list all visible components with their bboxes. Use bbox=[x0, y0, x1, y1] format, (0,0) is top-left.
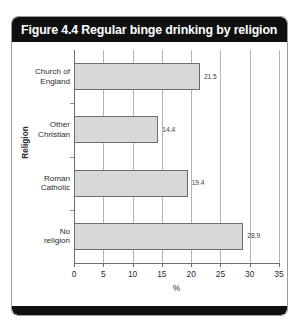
bar bbox=[74, 116, 158, 143]
bar-value-label: 21.5 bbox=[204, 73, 217, 80]
plot-area: 21.514.419.428.9 bbox=[74, 50, 279, 263]
x-tick-label: 30 bbox=[235, 269, 265, 279]
figure-card: Figure 4.4 Regular binge drinking by rel… bbox=[11, 16, 288, 316]
x-tick-label: 10 bbox=[118, 269, 148, 279]
gridline-30 bbox=[250, 50, 251, 263]
bar bbox=[74, 63, 200, 90]
category-label: Church ofEngland bbox=[14, 67, 70, 86]
chart-body: Religion 21.514.419.428.9 % 051015202530… bbox=[12, 42, 287, 306]
x-tick-label: 0 bbox=[59, 269, 89, 279]
x-tick-35 bbox=[279, 263, 280, 267]
figure-title-bar: Figure 4.4 Regular binge drinking by rel… bbox=[12, 17, 287, 42]
x-tick-label: 35 bbox=[264, 269, 288, 279]
figure-title: Figure 4.4 Regular binge drinking by rel… bbox=[21, 23, 277, 37]
bar bbox=[74, 223, 243, 250]
category-label: Noreligion bbox=[14, 227, 70, 246]
category-label: OtherChristian bbox=[14, 120, 70, 139]
category-label: RomanCatholic bbox=[14, 174, 70, 193]
bar-value-label: 14.4 bbox=[162, 126, 175, 133]
bar-value-label: 19.4 bbox=[192, 179, 205, 186]
gridline-35 bbox=[279, 50, 280, 263]
bar-value-label: 28.9 bbox=[247, 232, 260, 239]
figure-bottom-bar bbox=[12, 306, 287, 315]
x-tick-label: 5 bbox=[88, 269, 118, 279]
x-axis-title: % bbox=[74, 283, 279, 293]
x-axis-line bbox=[74, 263, 279, 264]
bar bbox=[74, 170, 188, 197]
category-tick bbox=[70, 210, 74, 211]
category-tick bbox=[70, 103, 74, 104]
x-tick-label: 15 bbox=[147, 269, 177, 279]
x-tick-label: 25 bbox=[205, 269, 235, 279]
category-tick bbox=[70, 157, 74, 158]
x-tick-label: 20 bbox=[176, 269, 206, 279]
